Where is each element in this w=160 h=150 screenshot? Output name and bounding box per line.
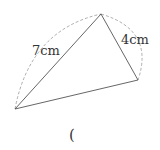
label-7cm: 7cm: [32, 44, 60, 57]
arc-top-right: [101, 14, 142, 80]
answer-paren: (: [69, 128, 75, 143]
triangle: [15, 14, 138, 109]
label-4cm: 4cm: [121, 33, 149, 46]
triangle-diagram: 7cm 4cm (: [0, 0, 160, 150]
triangle-figure: [0, 0, 160, 150]
